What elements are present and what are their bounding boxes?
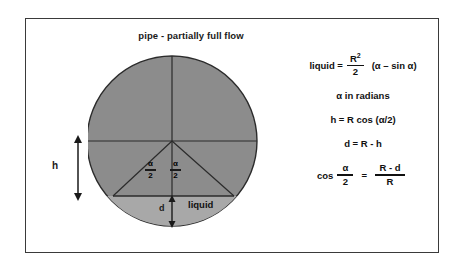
equation-liquid-area: liquid = R2 2 (α – sin α) bbox=[292, 54, 434, 77]
equation-cos-right-numerator: R - d bbox=[376, 163, 403, 173]
equation-liquid-exponent: 2 bbox=[357, 52, 361, 59]
equation-liquid-denominator: 2 bbox=[350, 67, 361, 77]
equation-d-definition: d = R - h bbox=[292, 138, 434, 149]
alpha-over-two-right-label: α 2 bbox=[170, 152, 181, 180]
equation-liquid-rhs: (α – sin α) bbox=[372, 60, 417, 71]
h-arrowhead-down bbox=[74, 193, 82, 201]
equation-liquid-numerator: R2 bbox=[347, 54, 364, 64]
alpha-left-denominator: 2 bbox=[145, 172, 155, 180]
equation-cos-equals: = bbox=[361, 170, 367, 181]
equation-panel: liquid = R2 2 (α – sin α) α in radians h… bbox=[292, 48, 434, 187]
liquid-region-label: liquid bbox=[188, 199, 213, 210]
equation-liquid-lhs: liquid = bbox=[309, 60, 343, 71]
alpha-right-denominator: 2 bbox=[170, 172, 180, 180]
alpha-right-numerator: α bbox=[170, 160, 181, 168]
equation-cos-lhs: cos bbox=[317, 170, 333, 181]
equation-cos-right-denominator: R bbox=[384, 177, 397, 187]
figure-root: pipe - partially full flow bbox=[0, 0, 460, 274]
h-arrowhead-up bbox=[74, 135, 82, 143]
page-title: pipe - partially full flow bbox=[96, 30, 286, 41]
equation-cos-left-denominator: 2 bbox=[340, 177, 351, 187]
equation-alpha-radians: α in radians bbox=[292, 90, 434, 101]
d-dimension-label: d bbox=[159, 203, 165, 213]
liquid-segment-fill bbox=[88, 196, 268, 238]
equation-h-definition: h = R cos (α/2) bbox=[292, 114, 434, 125]
equation-cos-right-fraction: R - d R bbox=[375, 163, 405, 186]
h-dimension-label: h bbox=[52, 160, 58, 171]
pipe-cross-section-diagram bbox=[88, 48, 268, 238]
alpha-over-two-left-label: α 2 bbox=[145, 152, 156, 180]
equation-cosine-relation: cos α 2 = R - d R bbox=[292, 163, 434, 186]
equation-cos-left-fraction: α 2 bbox=[337, 163, 353, 186]
equation-cos-left-numerator: α bbox=[339, 163, 351, 173]
equation-liquid-fraction: R2 2 bbox=[347, 54, 364, 77]
alpha-left-numerator: α bbox=[145, 160, 156, 168]
